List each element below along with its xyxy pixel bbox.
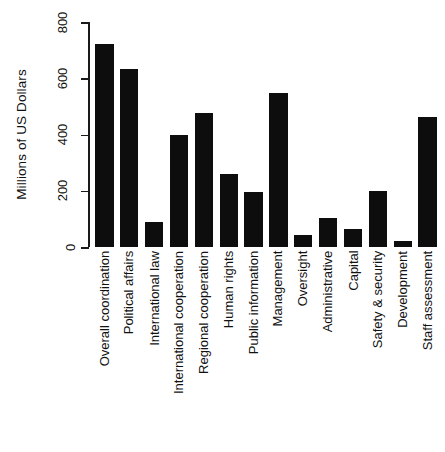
y-axis-tick-label-text: 800	[56, 11, 71, 33]
x-axis-tick-label-text: Staff assessment	[420, 250, 435, 349]
y-axis-title: Millions of US Dollars	[8, 22, 34, 247]
x-axis-tick-label: Safety & security	[365, 250, 390, 400]
x-axis-tick-label-text: Political affairs	[122, 251, 137, 335]
bar	[394, 241, 412, 247]
x-axis-tick-label-text: Regional cooperation	[196, 251, 211, 374]
x-axis-tick-label-text: Safety & security	[370, 251, 385, 349]
x-axis-tick-label: Overall coordination	[92, 250, 117, 400]
bar-chart: Millions of US Dollars 0200400600800 Ove…	[0, 0, 445, 452]
plot-area	[92, 22, 440, 247]
x-axis-tick-label-text: Overall coordination	[97, 251, 112, 367]
x-axis-tick-label: Capital	[341, 250, 366, 400]
bar	[95, 44, 113, 247]
x-axis-tick-label: Public information	[241, 250, 266, 400]
y-axis-tick-mark	[81, 191, 89, 193]
x-axis-tick-label-text: Management	[271, 251, 286, 327]
x-axis-tick-label: Oversight	[291, 250, 316, 400]
y-axis-tick-label-text: 200	[56, 180, 71, 202]
bar	[319, 218, 337, 247]
x-axis-tick-labels: Overall coordinationPolitical affairsInt…	[92, 250, 440, 410]
x-axis-tick-label-text: Public information	[246, 250, 261, 353]
x-axis-tick-label: International law	[142, 250, 167, 400]
y-axis-tick-mark	[81, 22, 89, 24]
x-axis-tick-label-text: Human rights	[221, 250, 236, 327]
y-axis-tick-mark	[81, 135, 89, 137]
bar	[269, 93, 287, 247]
x-axis-tick-label-text: Oversight	[296, 251, 311, 307]
y-axis-tick-label: 800	[44, 15, 74, 29]
x-axis-tick-label: Human rights	[216, 250, 241, 400]
bar	[170, 135, 188, 247]
y-axis-tick-label-text: 400	[56, 124, 71, 146]
x-axis-tick-label-text: International cooperation	[171, 250, 186, 393]
y-axis-tick-label: 600	[44, 71, 74, 85]
y-axis-tick-label: 400	[44, 128, 74, 142]
x-axis-tick-label: Political affairs	[117, 250, 142, 400]
x-axis-tick-label: Administrative	[316, 250, 341, 400]
bar	[220, 174, 238, 247]
y-axis-tick-label: 200	[44, 184, 74, 198]
x-axis-tick-label-text: Administrative	[321, 251, 336, 333]
x-axis-tick-label: International cooperation	[167, 250, 192, 400]
x-axis-tick-label-text: International law	[147, 251, 162, 346]
bar	[418, 117, 436, 247]
bar	[344, 229, 362, 247]
y-axis-tick-mark	[81, 78, 89, 80]
x-axis-tick-label-text: Development	[395, 251, 410, 328]
y-axis-title-text: Millions of US Dollars	[14, 69, 29, 199]
y-axis-tick-label-text: 600	[56, 67, 71, 89]
y-axis-tick-labels: 0200400600800	[44, 22, 74, 247]
bar	[294, 235, 312, 247]
x-axis-tick-label: Regional cooperation	[191, 250, 216, 400]
y-axis-tick-label: 0	[44, 240, 74, 254]
bar	[369, 191, 387, 247]
x-axis-tick-label: Staff assessment	[415, 250, 440, 400]
x-axis-tick-label-text: Capital	[345, 250, 360, 290]
bar	[244, 192, 262, 247]
y-axis-tick-label-text: 0	[63, 243, 78, 250]
y-axis-tick-mark	[81, 247, 89, 249]
bar	[145, 222, 163, 247]
x-axis-tick-label: Development	[390, 250, 415, 400]
x-axis-tick-label: Management	[266, 250, 291, 400]
bar	[195, 113, 213, 247]
bar	[120, 69, 138, 247]
